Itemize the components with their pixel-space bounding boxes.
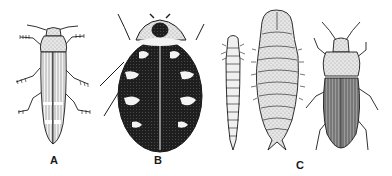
label-b: B (154, 154, 162, 166)
specimen-c-larva (221, 36, 245, 151)
specimen-c-adult (306, 22, 378, 150)
label-c: C (296, 159, 304, 171)
specimen-a-beetle (16, 25, 90, 144)
beetle-illustration-figure: A B C (0, 0, 392, 176)
specimen-c-pupa (251, 10, 305, 150)
specimen-b-beetle (100, 14, 204, 152)
label-a: A (50, 154, 58, 166)
